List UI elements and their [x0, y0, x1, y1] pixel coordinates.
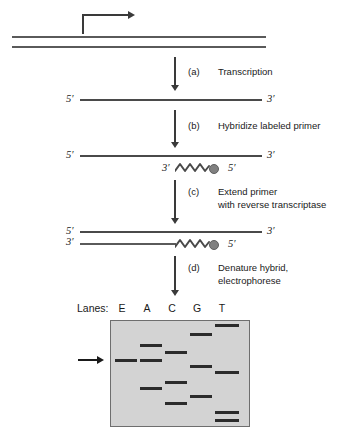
lane-label-G: G	[190, 302, 204, 314]
gel-band	[190, 395, 212, 398]
lanes-caption: Lanes:	[77, 302, 109, 314]
gel-band	[215, 324, 239, 327]
gel-band	[140, 359, 162, 362]
primer-label-tag-icon	[209, 240, 219, 250]
gel-band	[215, 419, 239, 422]
step-c-letter: (c)	[188, 186, 199, 197]
step-b-text: Hybridize labeled primer	[218, 120, 320, 133]
lane-label-E: E	[115, 302, 129, 314]
extended-rna-strand	[80, 231, 262, 233]
extended-rna-five-prime-label: 5′	[66, 226, 74, 237]
step-d-letter: (d)	[188, 262, 200, 273]
extension-product-pointer	[78, 359, 104, 361]
hybrid-primer-three-prime-label: 3′	[162, 163, 170, 174]
step-c-text: Extend primer with reverse transcriptase	[218, 186, 326, 212]
hybrid-rna-five-prime-label: 5′	[66, 150, 74, 161]
transcription-start-arrow	[82, 14, 138, 34]
gel-band	[190, 365, 212, 368]
hybrid-rna-three-prime-label: 3′	[267, 150, 275, 161]
step-a-arrow	[174, 57, 176, 91]
gel-band	[140, 387, 162, 390]
hybrid-rna-strand	[80, 155, 262, 157]
dna-top-strand	[12, 36, 266, 38]
extended-cdna-five-prime-label: 5′	[228, 239, 236, 250]
step-d-text: Denature hybrid, electrophorese	[218, 262, 288, 288]
transcript-three-prime-label: 3′	[267, 94, 275, 105]
extended-rna-three-prime-label: 3′	[267, 226, 275, 237]
electrophoresis-gel	[110, 320, 250, 427]
primer-extension-figure: (a) Transcription 5′ 3′ (b) Hybridize la…	[0, 0, 359, 443]
labeled-primer-extended	[175, 237, 227, 251]
gel-band	[115, 359, 137, 362]
gel-band	[215, 411, 239, 414]
extended-cdna-three-prime-label: 3′	[66, 237, 74, 248]
primer-label-tag-icon	[209, 164, 219, 174]
hybrid-primer-five-prime-label: 5′	[228, 163, 236, 174]
labeled-primer-hybridized	[175, 161, 227, 175]
dna-bottom-strand	[12, 46, 266, 48]
step-b-letter: (b)	[188, 120, 200, 131]
gel-band	[165, 351, 187, 354]
gel-band	[165, 402, 187, 405]
transcript-five-prime-label: 5′	[66, 94, 74, 105]
step-b-arrow	[174, 110, 176, 148]
transcript-strand	[80, 99, 262, 101]
step-c-arrow	[174, 180, 176, 224]
lane-label-T: T	[215, 302, 229, 314]
step-a-letter: (a)	[188, 66, 200, 77]
step-d-arrow	[174, 256, 176, 296]
gel-band	[190, 333, 212, 336]
lane-label-A: A	[140, 302, 154, 314]
gel-band	[140, 344, 162, 347]
gel-band	[215, 371, 239, 374]
step-a-text: Transcription	[218, 66, 273, 79]
gel-band	[165, 381, 187, 384]
lane-label-C: C	[165, 302, 179, 314]
extended-cdna-strand	[80, 243, 176, 245]
